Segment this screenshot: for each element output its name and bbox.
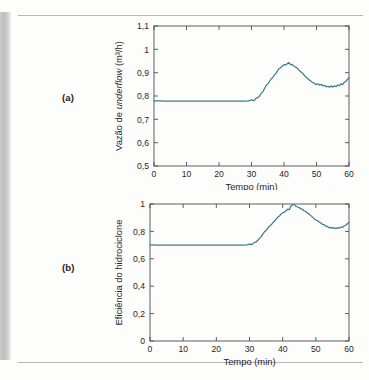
y-axis-label: Vazão de underflow (m³/h) — [113, 41, 124, 151]
x-tick-label: 40 — [279, 169, 289, 179]
y-tick-label: 0,8 — [133, 227, 145, 237]
series-line — [150, 205, 349, 246]
x-tick-label: 0 — [148, 344, 153, 354]
x-axis-label: Tempo (min) — [225, 181, 277, 190]
y-tick-label: 0,9 — [137, 68, 149, 78]
y-axis-label: Eficiência do hidrociclone — [113, 220, 124, 326]
y-tick-label: 0,6 — [133, 254, 145, 264]
panel-label-b: (b) — [62, 262, 75, 273]
y-tick-label: 0 — [140, 336, 145, 346]
x-tick-label: 20 — [214, 169, 224, 179]
y-tick-label: 0,6 — [137, 138, 149, 148]
x-tick-label: 40 — [278, 344, 288, 354]
top-divider-rule — [18, 15, 363, 16]
figure-page: (a) (b) 01020304050600,50,60,70,80,911,1… — [0, 0, 369, 380]
x-tick-label: 60 — [344, 344, 354, 354]
x-tick-label: 30 — [245, 344, 255, 354]
x-tick-label: 60 — [344, 169, 354, 179]
chart-hydrocyclone-efficiency: 010203040506000,20,40,60,81Tempo (min)Ef… — [110, 190, 360, 370]
x-tick-label: 0 — [152, 169, 157, 179]
chart-underflow-flowrate: 01020304050600,50,60,70,80,911,1Tempo (m… — [110, 18, 360, 190]
y-tick-label: 1 — [144, 45, 149, 55]
x-tick-label: 50 — [312, 169, 322, 179]
y-tick-label: 1 — [140, 199, 145, 209]
chart-b-canvas: 010203040506000,20,40,60,81Tempo (min)Ef… — [110, 190, 360, 370]
x-tick-label: 50 — [311, 344, 321, 354]
x-axis-label: Tempo (min) — [223, 356, 275, 367]
y-tick-label: 0,7 — [137, 115, 149, 125]
series-line — [154, 63, 349, 101]
x-tick-label: 20 — [212, 344, 222, 354]
chart-a-canvas: 01020304050600,50,60,70,80,911,1Tempo (m… — [110, 18, 360, 190]
x-tick-label: 30 — [247, 169, 257, 179]
scan-edge-shadow — [0, 12, 11, 360]
panel-label-a: (a) — [62, 92, 74, 103]
y-tick-label: 0,2 — [133, 309, 145, 319]
x-tick-label: 10 — [182, 169, 192, 179]
y-tick-label: 0,8 — [137, 91, 149, 101]
plot-frame — [154, 26, 349, 166]
y-tick-label: 0,4 — [133, 281, 145, 291]
plot-frame — [150, 204, 349, 341]
y-tick-label: 0,5 — [137, 161, 149, 171]
y-tick-label: 1,1 — [137, 21, 149, 31]
x-tick-label: 10 — [178, 344, 188, 354]
